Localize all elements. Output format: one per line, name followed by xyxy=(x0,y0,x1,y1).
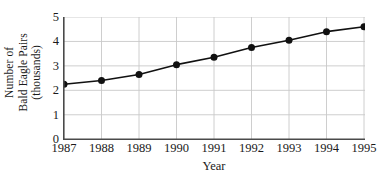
x-tick-label-1992: 1992 xyxy=(239,142,264,155)
x-tick-label-1991: 1991 xyxy=(202,142,227,155)
data-point-1995 xyxy=(361,23,366,30)
x-tick-label-1987: 1987 xyxy=(52,142,77,155)
data-point-1991 xyxy=(211,54,218,61)
y-axis-label: Number of Bald Eagle Pairs (thousands) xyxy=(0,0,46,145)
y-tick-label-5: 5 xyxy=(53,11,59,24)
vertical-gridlines xyxy=(102,17,365,139)
y-axis-label-line-3: (thousands) xyxy=(30,33,44,111)
y-tick-label-1: 1 xyxy=(53,109,59,122)
x-axis-ticks: 198719881989199019911992199319941995 xyxy=(63,142,365,159)
data-point-1989 xyxy=(136,71,143,78)
data-point-1994 xyxy=(323,28,330,35)
x-axis-label: Year xyxy=(63,160,365,173)
y-tick-label-4: 4 xyxy=(53,35,59,48)
x-tick-label-1988: 1988 xyxy=(89,142,114,155)
data-point-1988 xyxy=(98,77,105,84)
y-tick-label-2: 2 xyxy=(53,84,59,97)
data-point-1990 xyxy=(173,61,180,68)
x-tick-label-1994: 1994 xyxy=(314,142,339,155)
x-tick-label-1989: 1989 xyxy=(127,142,152,155)
y-tick-label-3: 3 xyxy=(53,60,59,73)
x-tick-label-1993: 1993 xyxy=(277,142,302,155)
x-tick-label-1995: 1995 xyxy=(352,142,377,155)
y-axis-label-line-2: Bald Eagle Pairs xyxy=(16,33,30,111)
bald-eagle-pairs-line-chart: Number of Bald Eagle Pairs (thousands) 0… xyxy=(0,0,378,178)
data-point-1993 xyxy=(286,37,293,44)
plot-area xyxy=(63,17,365,140)
x-tick-label-1990: 1990 xyxy=(164,142,189,155)
y-axis-label-line-1: Number of xyxy=(3,33,17,111)
plot-svg xyxy=(63,17,365,140)
data-point-1992 xyxy=(248,44,255,51)
